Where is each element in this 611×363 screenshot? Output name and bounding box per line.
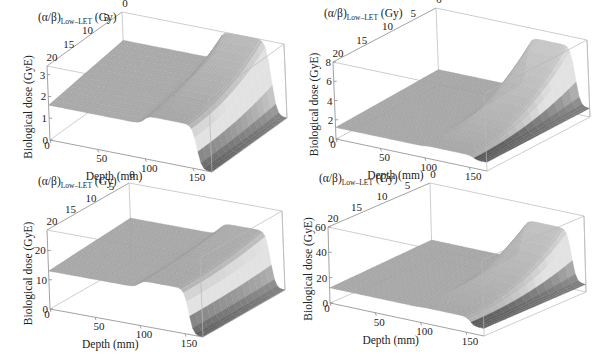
alpha-beta-tick-label: 15 — [351, 201, 363, 213]
alpha-beta-tick-label: 15 — [356, 34, 368, 46]
dose-tick-label: 0 — [329, 133, 335, 145]
alpha-beta-axis-label: (α/β)Low–LET (Gy) — [319, 172, 398, 187]
alpha-beta-tick-label: 10 — [82, 24, 94, 36]
alpha-beta-tick-label: 20 — [47, 51, 59, 63]
dose-tick-label: 3 — [40, 69, 46, 81]
dose-surface — [49, 218, 285, 337]
dose-tick-label: 2 — [328, 114, 334, 126]
alpha-beta-tick-label: 20 — [333, 47, 345, 59]
dose-surface — [330, 222, 586, 329]
dose-axis-label: Biological dose (GyE) — [302, 217, 315, 321]
alpha-beta-tick-label: 10 — [382, 20, 394, 32]
depth-tick-label: 100 — [141, 162, 158, 174]
alpha-beta-tick-label: 5 — [109, 180, 115, 192]
depth-tick-label: 50 — [379, 151, 391, 163]
alpha-beta-tick-label: 5 — [104, 11, 110, 23]
alpha-beta-tick-label: 0 — [436, 0, 442, 5]
alpha-beta-tick-label: 20 — [47, 215, 59, 227]
dose-tick-label: 20 — [316, 272, 328, 284]
depth-tick-label: 150 — [181, 337, 198, 349]
alpha-beta-tick-label: 5 — [411, 7, 417, 19]
dose-surface — [49, 33, 287, 172]
dose-tick-label: 2 — [41, 90, 47, 102]
depth-tick-label: 150 — [465, 170, 482, 182]
figure-canvas: (α/β)Low–LET (Gy) Depth (mm) Biological … — [0, 0, 611, 363]
dose-axis-label: Biological dose (GyE) — [22, 55, 35, 159]
depth-tick-label: 100 — [416, 325, 433, 337]
dose-tick-label: 20 — [35, 244, 47, 256]
depth-tick-label: 100 — [136, 328, 153, 340]
depth-tick-label: 50 — [374, 316, 386, 328]
dose-tick-label: 10 — [36, 274, 48, 286]
depth-tick-label: 50 — [96, 152, 108, 164]
dose-tick-label: 4 — [327, 95, 333, 107]
alpha-beta-tick-label: 10 — [86, 192, 98, 204]
dose-tick-label: 8 — [326, 56, 332, 68]
alpha-beta-tick-label: 10 — [377, 190, 389, 202]
alpha-beta-tick-label: 20 — [328, 212, 340, 224]
dose-tick-label: 0 — [43, 134, 49, 146]
dose-axis-label: Biological dose (GyE) — [308, 53, 321, 157]
dose-tick-label: 1 — [42, 112, 48, 124]
alpha-beta-tick-label: 15 — [63, 38, 75, 50]
depth-axis-label: Depth (mm) — [82, 338, 139, 351]
dose-axis-label: Biological dose (GyE) — [22, 222, 35, 326]
panel-top-left: (α/β)Low–LET (Gy) Depth (mm) Biological … — [22, 0, 288, 183]
dose-tick-label: 60 — [315, 221, 327, 233]
panel-bottom-right: (α/β)Low–LET (Gy) Depth (mm) Biological … — [302, 168, 586, 347]
panel-bottom-left: (α/β)Low–LET (Gy) Depth (mm) Biological … — [22, 168, 286, 351]
alpha-beta-axis-label: (α/β)Low–LET (Gy) — [38, 175, 117, 190]
depth-tick-label: 50 — [94, 320, 106, 332]
alpha-beta-tick-label: 15 — [65, 203, 77, 215]
panel-top-right: (α/β)Low–LET (Gy) Depth (mm) Biological … — [308, 0, 591, 182]
dose-tick-label: 0 — [323, 297, 329, 309]
dose-tick-label: 0 — [43, 303, 49, 315]
dose-tick-label: 40 — [316, 246, 328, 258]
dose-tick-label: 6 — [326, 75, 332, 87]
alpha-beta-tick-label: 0 — [129, 168, 135, 180]
dose-surface — [336, 39, 590, 162]
alpha-beta-tick-label: 0 — [122, 0, 128, 9]
depth-axis-label: Depth (mm) — [362, 334, 419, 347]
alpha-beta-tick-label: 5 — [405, 179, 411, 191]
depth-tick-label: 150 — [189, 171, 206, 183]
depth-tick-label: 150 — [462, 335, 479, 347]
alpha-beta-tick-label: 0 — [430, 168, 436, 180]
